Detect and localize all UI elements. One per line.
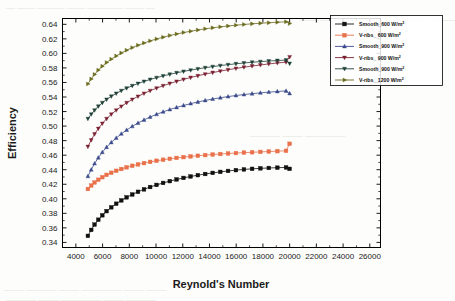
legend-label-superscript: 2 (402, 43, 404, 47)
data-point-triangle-right (125, 48, 129, 52)
series-line (88, 22, 290, 84)
data-point-triangle-up (130, 124, 134, 128)
y-tick-label: 0.48 (42, 137, 58, 146)
data-point-triangle-down (130, 98, 134, 102)
data-point-triangle-right (143, 41, 147, 45)
data-point-triangle-right (219, 25, 223, 29)
data-point-square (161, 181, 165, 185)
data-point-triangle-right (242, 23, 246, 27)
data-point-square (142, 161, 146, 165)
data-point-triangle-up (89, 168, 93, 172)
data-point-triangle-right (234, 23, 238, 27)
data-point-square (196, 154, 200, 158)
y-tick-label: 0.38 (42, 209, 58, 218)
data-point-triangle-down (89, 139, 93, 143)
data-point-square (136, 190, 140, 194)
series-2 (86, 89, 292, 178)
data-point-square (189, 155, 193, 159)
series-3 (86, 55, 292, 148)
x-tick-label: 4000 (67, 252, 85, 261)
data-point-triangle-down (105, 98, 109, 102)
data-point-square (250, 150, 254, 154)
data-point-triangle-right (204, 27, 208, 31)
legend-label-superscript: 2 (402, 66, 404, 70)
x-tick-label: 10000 (145, 252, 168, 261)
data-point-square (96, 178, 100, 182)
y-tick-label: 0.60 (42, 49, 58, 58)
data-point-triangle-right (189, 29, 193, 33)
data-point-square (86, 234, 90, 238)
data-point-square (250, 167, 254, 171)
data-point-square (136, 163, 140, 167)
data-point-square (155, 159, 159, 163)
y-tick-label: 0.36 (42, 224, 58, 233)
y-tick-label: 0.40 (42, 195, 58, 204)
data-point-square (276, 149, 280, 153)
data-point-square (89, 228, 93, 232)
legend-label: Smooth_900 W/m2 (359, 66, 404, 72)
data-point-square (155, 183, 159, 187)
x-tick-label: 14000 (198, 252, 221, 261)
x-tick-label: 24000 (332, 252, 355, 261)
data-point-triangle-right (251, 22, 255, 26)
chart-legend: Smooth_600 W/m2V-ribs_ 600 W/m2Smooth_90… (331, 16, 443, 86)
y-tick-label: 0.52 (42, 108, 58, 117)
data-point-square (161, 158, 165, 162)
data-point-square (96, 218, 100, 222)
data-point-square (119, 199, 123, 203)
y-tick-label: 0.34 (42, 238, 58, 247)
data-point-square (242, 168, 246, 172)
data-point-square (211, 171, 215, 175)
data-point-square (168, 179, 172, 183)
y-tick-label: 0.42 (42, 180, 58, 189)
data-point-square (114, 202, 118, 206)
y-tick-label: 0.46 (42, 151, 58, 160)
data-point-square (182, 176, 186, 180)
legend-label: V-ribs_ 600 W/m2 (359, 32, 401, 38)
data-point-triangle-down (125, 101, 129, 105)
data-point-triangle-right (196, 28, 200, 32)
legend-label-superscript: 2 (399, 32, 401, 36)
data-point-square (259, 150, 263, 154)
data-point-triangle-down (86, 145, 90, 149)
x-tick-label: 20000 (279, 252, 302, 261)
data-point-square (203, 153, 207, 157)
data-point-square (288, 167, 292, 171)
legend-label-superscript: 2 (402, 21, 404, 25)
data-point-triangle-up (86, 174, 90, 178)
data-point-square (175, 178, 179, 182)
data-point-triangle-right (227, 24, 231, 28)
data-point-square (148, 160, 152, 164)
y-tick-label: 0.44 (42, 166, 58, 175)
data-point-square (125, 195, 129, 199)
legend-label: Smooth_600 W/m2 (359, 21, 404, 27)
data-point-square (226, 169, 230, 173)
data-point-triangle-right (120, 51, 124, 55)
data-point-square (211, 153, 215, 157)
legend-label-superscript: 2 (402, 77, 404, 81)
data-point-square (109, 171, 113, 175)
data-point-square (105, 209, 109, 213)
data-point-triangle-down (114, 92, 118, 96)
data-point-square (105, 173, 109, 177)
data-point-square (276, 166, 280, 170)
data-point-square (93, 181, 97, 185)
data-point-square (234, 168, 238, 172)
y-tick-label: 0.58 (42, 64, 58, 73)
data-point-square (218, 170, 222, 174)
data-point-square (234, 151, 238, 155)
x-tick-label: 8000 (120, 252, 138, 261)
data-point-triangle-right (86, 82, 90, 86)
data-point-square (259, 166, 263, 170)
x-axis-tick-labels: 4000600080001000012000140001600018000200… (67, 252, 382, 261)
data-point-triangle-right (211, 26, 215, 30)
data-point-square (242, 151, 246, 155)
data-series-layer (86, 20, 292, 238)
data-point-square (93, 223, 97, 227)
x-tick-label: 12000 (172, 252, 195, 261)
data-point-square (182, 155, 186, 159)
data-point-square (125, 165, 129, 169)
data-point-triangle-right (137, 43, 141, 47)
data-point-triangle-down (288, 62, 292, 66)
